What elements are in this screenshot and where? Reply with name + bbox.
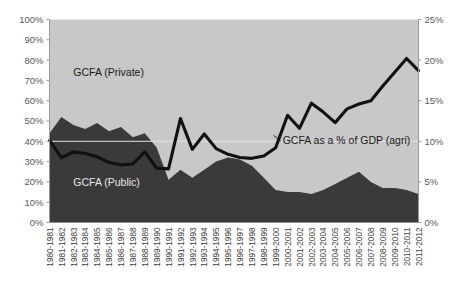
category-axis-label: 1992-1993	[189, 227, 198, 267]
category-axis-label: 1993-1994	[200, 227, 209, 267]
stacked-area-chart: 0%10%20%30%40%50%60%70%80%90%100% 0%5%10…	[0, 0, 466, 293]
category-axis-label: 2010-2011	[403, 227, 412, 266]
left-axis-tick-label: 20%	[24, 176, 44, 187]
category-axis-label: 1980-1981	[46, 227, 55, 267]
series-label-gcfa-pct-of-gdp: GCFA as a % of GDP (agri)	[283, 134, 411, 146]
category-axis-label: 1987-1988	[129, 227, 138, 267]
left-axis-tick-label: 10%	[24, 197, 44, 208]
category-axis-label: 2005-2006	[343, 227, 352, 267]
series-label-gcfa-private: GCFA (Private)	[73, 66, 144, 78]
category-axis-label: 2001-2002	[296, 227, 305, 267]
right-axis-tick-label: 25%	[425, 14, 445, 25]
category-axis-label: 1995-1996	[224, 227, 233, 267]
category-axis-label: 1994-1995	[212, 227, 221, 267]
category-axis-label: 2002-2003	[308, 227, 317, 267]
category-axis-label: 1997-1998	[248, 227, 257, 267]
category-axis-label: 1983-1984	[81, 227, 90, 267]
left-axis-tick-label: 60%	[24, 95, 44, 106]
left-axis-tick-label: 70%	[24, 75, 44, 86]
left-axis-tick-label: 90%	[24, 34, 44, 45]
right-axis-tick-label: 0%	[425, 217, 439, 228]
left-axis-tick-label: 30%	[24, 156, 44, 167]
series-label-gcfa-public: GCFA (Public)	[73, 176, 140, 188]
left-axis-tick-label: 40%	[24, 136, 44, 147]
left-axis-tick-label: 100%	[19, 14, 44, 25]
category-axis-label: 2000-2001	[284, 227, 293, 267]
category-axis-label: 1989-1990	[153, 227, 162, 267]
right-axis-tick-label: 20%	[425, 55, 445, 66]
category-axis-label: 1996-1997	[236, 227, 245, 267]
category-axis-label: 1998-1999	[260, 227, 269, 267]
right-axis-tick-label: 5%	[425, 176, 439, 187]
right-axis-tick-label: 10%	[425, 136, 445, 147]
category-axis-label: 1981-1982	[58, 227, 67, 267]
category-axis-label: 2011-2012	[415, 227, 424, 266]
category-axis-label: 1986-1987	[117, 227, 126, 267]
category-axis-label: 2009-2010	[391, 227, 400, 267]
category-axis-label: 1999-2000	[272, 227, 281, 267]
right-axis-tick-label: 15%	[425, 95, 445, 106]
chart-container: 0%10%20%30%40%50%60%70%80%90%100% 0%5%10…	[0, 0, 466, 293]
plot-area	[50, 20, 419, 223]
category-axis-label: 2003-2004	[319, 227, 328, 267]
category-axis-label: 1985-1986	[105, 227, 114, 267]
left-axis-tick-label: 0%	[30, 217, 44, 228]
category-axis-label: 1990-1991	[165, 227, 174, 267]
category-axis-label: 2007-2008	[367, 227, 376, 267]
left-axis-tick-label: 50%	[24, 115, 44, 126]
category-axis-label: 2008-2009	[379, 227, 388, 267]
category-axis-label: 2006-2007	[355, 227, 364, 267]
category-axis-label: 1982-1983	[70, 227, 79, 267]
category-axis-label: 1984-1985	[93, 227, 102, 267]
category-axis-label: 1991-1992	[177, 227, 186, 267]
category-axis-label: 2004-2005	[331, 227, 340, 267]
category-axis-label: 1988-1989	[141, 227, 150, 267]
left-axis-tick-label: 80%	[24, 55, 44, 66]
